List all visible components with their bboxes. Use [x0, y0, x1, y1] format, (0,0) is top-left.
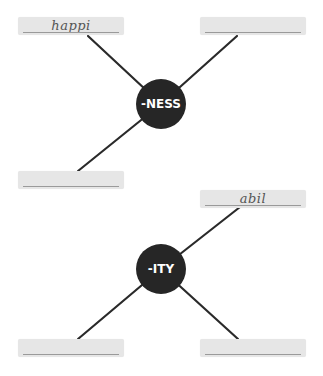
- ity-suffix-hub: -ITY: [136, 244, 186, 294]
- underline: [23, 354, 119, 355]
- suffix-label: -ITY: [148, 262, 174, 276]
- ity-box-top-right[interactable]: abil: [200, 190, 306, 208]
- ness-box-top-left[interactable]: happi: [18, 17, 124, 35]
- underline: [205, 205, 301, 206]
- ness-box-bottom-left[interactable]: [18, 171, 124, 189]
- ness-suffix-hub: -NESS: [136, 79, 186, 129]
- underline: [23, 186, 119, 187]
- underline: [205, 32, 301, 33]
- word-input-value: abil: [200, 192, 306, 206]
- ity-box-bottom-right[interactable]: [200, 339, 306, 357]
- underline: [23, 32, 119, 33]
- ness-box-top-right[interactable]: [200, 17, 306, 35]
- suffix-label: -NESS: [141, 97, 181, 111]
- ity-box-bottom-left[interactable]: [18, 339, 124, 357]
- word-input-value: happi: [18, 19, 124, 33]
- underline: [205, 354, 301, 355]
